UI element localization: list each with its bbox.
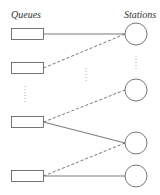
station-2-circle <box>125 79 147 101</box>
station-3-circle <box>125 132 147 154</box>
queue-4-box <box>12 171 44 182</box>
station-1-circle <box>125 23 147 45</box>
stations <box>125 23 147 187</box>
connection-queue-3-station-3 <box>44 122 126 143</box>
connection-queue-2-station-1 <box>44 34 126 68</box>
connection-queue-4-station-3 <box>44 143 126 176</box>
connection-queue-3-station-2 <box>44 90 126 122</box>
queue-2-box <box>12 63 44 74</box>
queues <box>12 29 44 182</box>
queue-3-box <box>12 117 44 128</box>
queue-1-box <box>12 29 44 40</box>
station-4-circle <box>125 165 147 187</box>
queue-station-diagram <box>0 0 160 195</box>
connections <box>44 34 126 176</box>
